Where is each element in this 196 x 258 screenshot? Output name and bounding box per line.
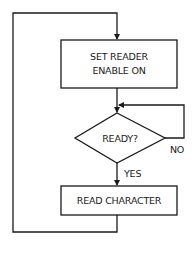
ready-label: READY? bbox=[75, 132, 165, 145]
set-reader-label-line1: SET READER bbox=[61, 50, 177, 63]
yes-label: YES bbox=[124, 167, 152, 180]
flowchart-canvas bbox=[0, 0, 196, 258]
read-character-label: READ CHARACTER bbox=[61, 194, 177, 207]
no-label: NO bbox=[166, 143, 188, 156]
set-reader-label-line2: ENABLE ON bbox=[61, 64, 177, 77]
